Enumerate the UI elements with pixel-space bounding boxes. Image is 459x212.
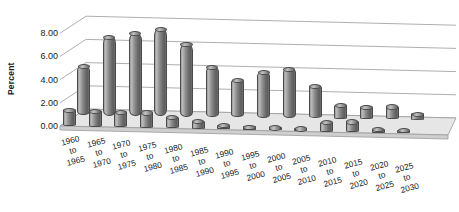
- x-axis-tick-11: 2015to2020: [343, 156, 369, 191]
- bar-back-5: [206, 67, 219, 117]
- bar-cap: [283, 67, 295, 72]
- bar-front-6: [217, 125, 230, 130]
- bar-front-0: [63, 109, 76, 126]
- bar-cap: [103, 35, 115, 40]
- bar-cap: [63, 108, 75, 113]
- bar-back-0: [77, 66, 90, 116]
- x-axis-tick-7: 1995to2000: [240, 148, 266, 183]
- bar-front-8: [269, 127, 282, 130]
- bar-cap: [412, 112, 424, 117]
- x-axis-tick-10: 2010to2015: [317, 154, 343, 189]
- bar-cap: [321, 120, 333, 125]
- bar-front-1: [89, 110, 102, 126]
- bar-back-13: [411, 113, 424, 119]
- x-axis-tick-2: 1970to1975: [111, 137, 137, 172]
- bar-back-3: [154, 28, 167, 116]
- bar-cap: [269, 125, 281, 130]
- bar-front-9: [294, 128, 307, 131]
- bar-cap: [346, 119, 358, 124]
- bar-cap: [141, 110, 153, 115]
- bar-cap: [360, 105, 372, 110]
- bar-front-5: [192, 121, 205, 129]
- bar-front-3: [140, 112, 153, 128]
- bar-cap: [166, 115, 178, 120]
- chart-container: Percent 0.002.004.006.008.00 1960to19651…: [0, 0, 459, 212]
- bar-back-1: [103, 36, 116, 115]
- bar-front-4: [166, 117, 179, 129]
- x-axis-tick-4: 1980to1985: [163, 142, 189, 177]
- bar-cap: [386, 104, 398, 109]
- bar-cap: [258, 70, 270, 75]
- bar-back-2: [129, 33, 142, 117]
- x-axis-tick-3: 1975to1980: [137, 140, 163, 175]
- bar-cap: [89, 109, 101, 114]
- x-axis-tick-8: 2000to2005: [266, 150, 292, 185]
- bar-front-2: [114, 111, 127, 127]
- bar-front-11: [346, 121, 359, 132]
- bar-cap: [232, 78, 244, 83]
- x-axis-tick-6: 1990to1995: [214, 146, 240, 181]
- bar-back-10: [334, 105, 347, 119]
- x-axis-tick-0: 1960to1965: [60, 133, 86, 168]
- bar-back-6: [231, 79, 244, 117]
- bar-front-10: [320, 122, 333, 132]
- bar-cap: [372, 127, 384, 132]
- bar-front-13: [397, 130, 410, 133]
- bar-back-12: [386, 106, 399, 119]
- bar-back-11: [360, 107, 373, 119]
- bar-cap: [295, 126, 307, 131]
- bar-cap: [243, 125, 255, 130]
- x-axis-tick-5: 1985to1990: [189, 144, 215, 179]
- bar-cap: [309, 84, 321, 89]
- bar-cap: [115, 110, 127, 115]
- x-axis-tick-9: 2005to2010: [291, 152, 317, 187]
- bar-cap: [180, 42, 192, 47]
- bar-cap: [129, 31, 141, 36]
- bar-back-9: [309, 85, 322, 118]
- bar-front-12: [372, 129, 385, 133]
- bar-front-7: [243, 126, 256, 129]
- x-axis-tick-13: 2025to2030: [394, 161, 420, 196]
- bar-cap: [206, 65, 218, 70]
- bar-back-8: [283, 68, 296, 118]
- bar-back-4: [180, 44, 193, 117]
- bar-cap: [398, 128, 410, 133]
- bar-back-7: [257, 72, 270, 118]
- bar-cap: [78, 64, 90, 69]
- bar-cap: [192, 119, 204, 124]
- x-axis-tick-12: 2020to2025: [369, 158, 395, 193]
- x-axis-tick-1: 1965to1970: [86, 135, 112, 170]
- bar-cap: [218, 123, 230, 128]
- bar-cap: [335, 103, 347, 108]
- bar-cap: [155, 27, 167, 32]
